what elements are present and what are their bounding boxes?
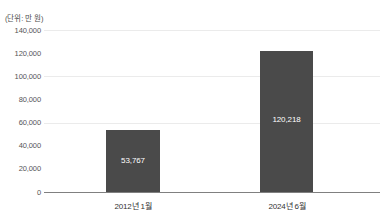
y-tick-label: 20,000 (1, 164, 41, 173)
y-tick-label: 40,000 (1, 141, 41, 150)
bar-2012-01: 53,767 (106, 130, 160, 192)
x-axis-line (44, 192, 380, 193)
y-tick-label: 120,000 (1, 49, 41, 58)
y-tick-label: 0 (1, 188, 41, 197)
y-axis-tick-labels: 140,000 120,000 100,000 80,000 60,000 40… (0, 0, 41, 221)
y-tick-label: 80,000 (1, 95, 41, 104)
bar-chart: (단위: 만 원) 140,000 120,000 100,000 80,000… (0, 0, 384, 221)
gridline-60000 (44, 123, 380, 124)
plot-area: 53,767 120,218 (44, 30, 380, 192)
gridline-140000 (44, 30, 380, 31)
x-tick-label-2024-06: 2024년 6월 (269, 200, 306, 211)
bar-value-label: 120,218 (260, 115, 313, 124)
gridline-100000 (44, 76, 380, 77)
bar-value-label: 53,767 (106, 156, 160, 165)
bar-2024-06: 120,218 (260, 51, 313, 192)
y-tick-label: 100,000 (1, 72, 41, 81)
y-tick-label: 140,000 (1, 26, 41, 35)
x-tick-label-2012-01: 2012년 1월 (115, 200, 152, 211)
y-tick-label: 60,000 (1, 118, 41, 127)
